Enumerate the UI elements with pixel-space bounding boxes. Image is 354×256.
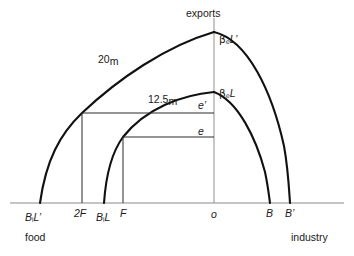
tick-label-two-f: 2F bbox=[74, 208, 86, 219]
outer-curve-subscript: m bbox=[110, 55, 119, 67]
outer-curve-annotation: 20m bbox=[98, 50, 118, 66]
equilibrium-point-lower: e bbox=[198, 126, 204, 137]
beta-glyph-outer: β bbox=[219, 33, 226, 45]
outer-curve-value: 20 bbox=[98, 53, 110, 65]
inner-curve-annotation: 12.5m bbox=[148, 90, 177, 106]
beta-glyph-inner: β bbox=[219, 87, 226, 99]
beta-rest-inner: L bbox=[230, 87, 236, 99]
tick-label-origin: o bbox=[211, 209, 217, 220]
tick-label-b: B bbox=[266, 208, 273, 219]
outer-transformation-curve-right bbox=[214, 32, 290, 203]
inner-curve-value: 12.5 bbox=[148, 93, 168, 105]
inner-curve-intercept-label: βeL bbox=[219, 84, 236, 100]
axis-label-food: food bbox=[25, 232, 45, 243]
tick-bil-base: B bbox=[96, 211, 103, 223]
beta-rest-outer: L’ bbox=[230, 33, 238, 45]
tick-label-b-prime: B’ bbox=[285, 208, 294, 219]
outer-curve-intercept-label: βeL’ bbox=[219, 30, 237, 46]
outer-transformation-curve bbox=[40, 32, 214, 203]
inner-transformation-curve-right bbox=[214, 92, 270, 203]
equilibrium-point-upper: e’ bbox=[198, 100, 206, 111]
diagram-canvas bbox=[0, 0, 354, 256]
inner-curve-subscript: m bbox=[168, 95, 177, 107]
tick-bil-rest: L bbox=[104, 211, 110, 223]
tick-bil-prime-rest: L’ bbox=[33, 211, 41, 223]
tick-label-f: F bbox=[120, 208, 126, 219]
tick-bil-prime-base: B bbox=[25, 211, 32, 223]
tick-label-bil-prime: BiL’ bbox=[25, 208, 41, 224]
transformation-curve-diagram: exports βeL’ βeL 20m 12.5m e’ e BiL’ 2F … bbox=[0, 0, 354, 256]
tick-label-bil: BiL bbox=[96, 208, 110, 224]
axis-label-industry: industry bbox=[291, 232, 328, 243]
axis-label-exports: exports bbox=[186, 8, 220, 19]
